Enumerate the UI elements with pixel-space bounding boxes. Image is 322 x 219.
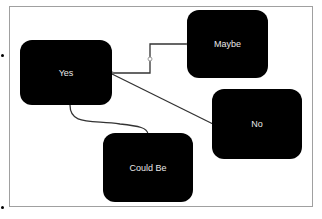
- node-could-be[interactable]: Could Be: [103, 133, 193, 202]
- node-label: Yes: [59, 68, 74, 78]
- node-yes[interactable]: Yes: [20, 40, 112, 105]
- connector-midpoint-handle[interactable]: [148, 57, 152, 61]
- node-maybe[interactable]: Maybe: [187, 10, 268, 78]
- node-label: No: [251, 119, 263, 129]
- connector-yes-could-be[interactable]: [70, 105, 148, 134]
- connector-yes-no[interactable]: [112, 74, 213, 124]
- node-label: Maybe: [214, 39, 241, 49]
- node-label: Could Be: [129, 163, 166, 173]
- node-no[interactable]: No: [212, 89, 302, 159]
